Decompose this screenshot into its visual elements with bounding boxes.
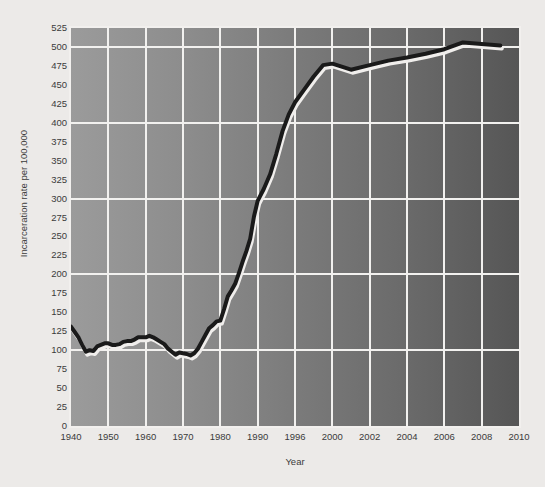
chart-figure: 0255075100125150175200225250275300325350… (0, 0, 545, 487)
x-axis-tick-label: 2004 (396, 431, 417, 442)
x-axis-tick-label: 1990 (247, 431, 268, 442)
y-axis-tick-label: 350 (25, 156, 67, 166)
y-axis-tick-label: 425 (25, 99, 67, 109)
y-axis-tick-label: 475 (25, 61, 67, 71)
y-axis-tick-labels: 0255075100125150175200225250275300325350… (22, 28, 67, 426)
y-axis-tick-label: 450 (25, 80, 67, 90)
y-axis-tick-label: 0 (25, 421, 67, 431)
x-axis-tick-label: 2002 (359, 431, 380, 442)
x-axis-tick-label: 1940 (60, 431, 81, 442)
y-axis-tick-label: 50 (25, 383, 67, 393)
y-axis-tick-label: 500 (25, 42, 67, 52)
y-axis-tick-label: 175 (25, 288, 67, 298)
y-axis-tick-label: 325 (25, 175, 67, 185)
y-axis-tick-label: 300 (25, 194, 67, 204)
series-highlight-shadow (73, 45, 502, 358)
x-axis-tick-label: 1950 (98, 431, 119, 442)
x-axis-tick-label: 1980 (210, 431, 231, 442)
x-axis-tick-label: 1996 (284, 431, 305, 442)
data-series-layer (71, 28, 519, 426)
x-axis-tick-label: 2006 (434, 431, 455, 442)
x-axis-title: Year (71, 456, 519, 467)
plot-area (71, 28, 519, 426)
y-axis-tick-label: 100 (25, 345, 67, 355)
y-axis-tick-label: 225 (25, 250, 67, 260)
y-axis-tick-label: 525 (25, 23, 67, 33)
y-axis-tick-label: 375 (25, 137, 67, 147)
y-axis-tick-label: 150 (25, 307, 67, 317)
y-axis-tick-label: 200 (25, 269, 67, 279)
y-axis-tick-label: 25 (25, 402, 67, 412)
x-axis-tick-label: 2008 (471, 431, 492, 442)
x-axis-tick-label: 2010 (508, 431, 529, 442)
x-axis-tick-labels: 1940195019601970198019901996200020022004… (71, 431, 519, 445)
y-axis-title: Incarceration rate per 100,000 (18, 94, 29, 294)
series-line-incarceration-rate (71, 42, 500, 355)
x-axis-tick-label: 1970 (172, 431, 193, 442)
y-axis-tick-label: 250 (25, 231, 67, 241)
x-axis-tick-label: 2000 (322, 431, 343, 442)
y-axis-tick-label: 75 (25, 364, 67, 374)
y-axis-tick-label: 125 (25, 326, 67, 336)
y-axis-tick-label: 275 (25, 213, 67, 223)
y-axis-tick-label: 400 (25, 118, 67, 128)
x-axis-tick-label: 1960 (135, 431, 156, 442)
